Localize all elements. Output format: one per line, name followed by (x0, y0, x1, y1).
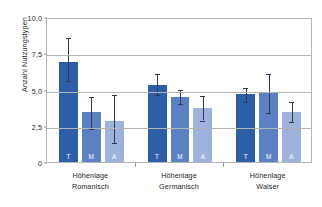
bars-layer: TMATMATMA (47, 19, 311, 162)
error-bar-line (246, 88, 247, 102)
gridline (47, 128, 311, 129)
y-tick-label: 7,5 (16, 50, 42, 59)
x-axis-group-label: HöhenlageGermanisch (135, 170, 224, 192)
error-bar-cap-top (89, 97, 94, 98)
error-bar-cap-top (66, 38, 71, 39)
error-bar-cap-top (112, 95, 117, 96)
x-axis-group-label: HöhenlageRomanisch (46, 170, 135, 192)
bar-series-letter: M (171, 153, 190, 160)
error-bar-cap-bottom (89, 129, 94, 130)
group-label-line1: Höhenlage (250, 171, 286, 180)
error-bar-cap-top (243, 88, 248, 89)
x-axis-group-separator (223, 163, 224, 167)
bar-series-letter: T (236, 153, 255, 160)
error-bar-line (203, 96, 204, 121)
group-label-line2: Walser (223, 181, 312, 192)
bar-series-letter: A (105, 153, 124, 160)
error-bar-cap-bottom (112, 143, 117, 144)
group-label-line1: Höhenlage (161, 171, 197, 180)
y-tick-mark (44, 18, 47, 19)
error-bar-cap-bottom (266, 113, 271, 114)
gridline (47, 55, 311, 56)
x-axis-group-label: HöhenlageWalser (223, 170, 312, 192)
bar-series-letter: A (282, 153, 301, 160)
bar-series-letter: M (259, 153, 278, 160)
y-tick-label: 0 (16, 159, 42, 168)
bar: T (148, 85, 167, 162)
y-tick-mark (44, 126, 47, 127)
group-label-line2: Romanisch (46, 181, 135, 192)
y-tick-mark (44, 163, 47, 164)
y-axis-tick-labels: 02,55,07,510,0 (16, 0, 42, 207)
error-bar-cap-top (266, 74, 271, 75)
error-bar-cap-bottom (243, 102, 248, 103)
error-bar-cap-top (289, 102, 294, 103)
bar: M (171, 97, 190, 162)
error-bar-cap-bottom (66, 81, 71, 82)
y-tick-mark (44, 54, 47, 55)
y-tick-label: 10,0 (16, 14, 42, 23)
bar-series-letter: A (193, 153, 212, 160)
error-bar-cap-top (155, 74, 160, 75)
error-bar-line (91, 97, 92, 129)
error-bar-cap-bottom (178, 104, 183, 105)
bar-chart: Anzahl Nutzungstypen 02,55,07,510,0 TMAT… (0, 0, 322, 207)
group-label-line1: Höhenlage (72, 171, 108, 180)
plot-area: TMATMATMA (46, 18, 312, 163)
error-bar-line (292, 102, 293, 122)
y-tick-mark (44, 90, 47, 91)
y-tick-label: 2,5 (16, 122, 42, 131)
error-bar-line (114, 95, 115, 143)
gridline (47, 92, 311, 93)
error-bar-line (68, 38, 69, 82)
bar-series-letter: T (59, 153, 78, 160)
error-bar-cap-top (200, 96, 205, 97)
x-axis-group-separator (135, 163, 136, 167)
bar-series-letter: T (148, 153, 167, 160)
bar-series-letter: M (82, 153, 101, 160)
error-bar-cap-bottom (200, 121, 205, 122)
error-bar-cap-bottom (155, 95, 160, 96)
error-bar-cap-bottom (289, 122, 294, 123)
y-tick-label: 5,0 (16, 86, 42, 95)
error-bar-line (269, 74, 270, 112)
group-label-line2: Germanisch (135, 181, 224, 192)
